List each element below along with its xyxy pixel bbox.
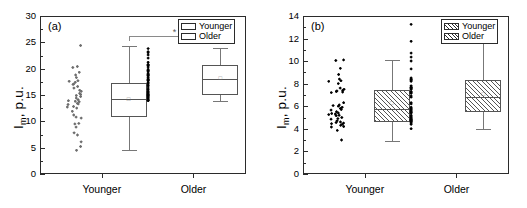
y-tick-minor [303,27,306,28]
y-tick-label: 0 [10,168,36,179]
x-tick [365,174,366,178]
scatter-point [330,125,333,128]
scatter-point [79,44,82,47]
y-tick-major [303,61,308,62]
y-tick-label: 25 [10,36,36,47]
scatter-point [146,56,149,59]
scatter-point [330,112,333,115]
x-tick [193,174,194,178]
y-tick-label: 0 [273,168,299,179]
scatter-point [331,104,334,107]
y-tick-minor [303,50,306,51]
x-tick-label-older: Older [153,183,233,195]
scatter-point [329,108,332,111]
scatter-point [330,122,333,125]
scatter-point [334,59,337,62]
scatter-point [409,127,412,130]
scatter-point [75,149,78,152]
scatter-point [75,76,78,79]
y-tick-major [40,42,45,43]
scatter-point [72,105,75,108]
scatter-point [338,86,341,89]
y-tick-minor [303,118,306,119]
scatter-point [75,106,78,109]
box-younger [374,90,410,122]
scatter-point [79,140,82,143]
y-tick-minor [303,95,306,96]
scatter-point [342,58,345,61]
y-tick-major [303,106,308,107]
whisker-lower [392,122,393,141]
y-tick-major [303,174,308,175]
x-tick-label-younger: Younger [325,183,405,195]
scatter-point [327,113,330,116]
y-tick-label: 30 [10,10,36,21]
scatter-point [146,47,149,50]
y-tick-label: 12 [273,33,299,44]
y-tick-label: 14 [273,10,299,21]
scatter-point [409,40,412,43]
significance-marker: * [173,28,177,37]
scatter-point [77,122,80,125]
legend: YoungerOlder [441,19,498,44]
scatter-point [67,80,70,83]
y-tick-minor [40,56,43,57]
y-tick-label: 2 [273,145,299,156]
scatter-point [71,66,74,69]
scatter-point [337,82,340,85]
y-tick-label: 10 [10,115,36,126]
y-tick-major [303,39,308,40]
legend-item-younger[interactable]: Younger [181,22,232,31]
y-tick-major [40,148,45,149]
legend-label-younger: Younger [462,22,495,31]
legend-label-older: Older [199,32,221,41]
scatter-point [340,138,343,141]
y-tick-label: 6 [273,100,299,111]
whisker-upper [483,41,484,79]
legend-label-younger: Younger [199,22,232,31]
legend-item-younger[interactable]: Younger [444,22,495,31]
mean-marker: □ [218,75,222,81]
scatter-point [339,67,342,70]
y-tick-major [303,84,308,85]
scatter-point [72,113,75,116]
scatter-point [330,91,333,94]
y-tick-label: 4 [273,123,299,134]
y-tick-major [303,129,308,130]
y-tick-label: 8 [273,78,299,89]
scatter-point [327,80,330,83]
scatter-point [409,59,412,62]
legend: YoungerOlder [178,19,235,44]
scatter-point [409,55,412,58]
median-line [465,97,501,98]
y-tick-minor [40,29,43,30]
x-tick [456,174,457,178]
legend-item-older[interactable]: Older [444,32,495,41]
x-tick [102,174,103,178]
y-tick-major [40,69,45,70]
panel-a: □□*Im, p.u.051015202530YoungerOlder(a)Yo… [0,0,263,208]
legend-swatch-younger [181,23,196,30]
y-tick-major [303,151,308,152]
y-tick-label: 20 [10,63,36,74]
mean-marker: □ [481,91,485,97]
scatter-point [329,117,332,120]
y-tick-label: 5 [10,142,36,153]
y-tick-minor [40,108,43,109]
y-tick-minor [40,135,43,136]
legend-swatch-younger [444,23,459,30]
whisker-cap-lower [122,150,137,151]
scatter-point [74,125,77,128]
mean-marker: □ [127,96,131,102]
legend-item-older[interactable]: Older [181,32,232,41]
scatter-point [72,86,75,89]
y-tick-minor [303,140,306,141]
y-tick-major [40,121,45,122]
legend-swatch-older [181,33,196,40]
scatter-point [66,105,69,108]
scatter-point [79,145,82,148]
panel-b: □□Im, p.u.02468101214YoungerOlder(b)Youn… [263,0,526,208]
y-tick-major [303,16,308,17]
scatter-point [342,101,345,104]
mean-marker: □ [390,100,394,106]
